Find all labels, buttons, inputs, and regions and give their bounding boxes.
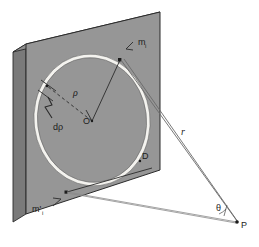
label-angle-theta: θ [216, 203, 221, 213]
point-D-marker [139, 160, 141, 162]
label-mass-element-front-subscript: i [145, 43, 146, 49]
label-distance-r: r [181, 126, 185, 137]
label-radius-increment-drho: dρ [53, 122, 63, 132]
label-field-point-P: P [241, 220, 247, 230]
figure-root: m i ρ dρ O D m' i r θ P [0, 0, 259, 247]
plate-left-edge-face [13, 44, 26, 222]
label-center-O: O [83, 116, 90, 126]
label-mass-element-back-subscript: i [42, 210, 43, 216]
mass-element-mi-marker [118, 58, 121, 61]
ray-mi-prime-to-P [67, 192, 237, 222]
rho-endpoint-dot [46, 85, 49, 88]
label-mass-element-back: m' [32, 204, 41, 214]
geometry-diagram: m i ρ dρ O D m' i r θ P [0, 0, 259, 247]
ray-mi-prime-to-P-2 [67, 193, 236, 223]
label-point-D: D [142, 151, 149, 161]
label-radius-rho: ρ [72, 87, 78, 98]
center-point-O [91, 120, 93, 122]
field-point-P-marker [235, 220, 239, 224]
